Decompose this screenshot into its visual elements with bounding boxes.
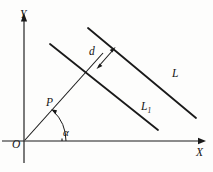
distance-d-arrow-lower-icon (97, 64, 103, 70)
geometry-figure: Y X O P d L L1 α (0, 0, 213, 172)
x-axis-label: X (196, 147, 203, 159)
distance-d-label: d (89, 46, 95, 58)
x-axis-arrow-icon (198, 138, 206, 144)
distance-d-segment (99, 50, 114, 67)
line-L-label: L (172, 68, 178, 80)
segment-p-label: P (46, 97, 53, 109)
angle-alpha-label: α (63, 127, 69, 138)
y-axis-label: Y (20, 9, 26, 21)
line-L1-label-subscript: 1 (147, 106, 151, 115)
x-axis-group (2, 138, 206, 144)
origin-label: O (12, 139, 20, 151)
line-L1 (50, 44, 158, 130)
line-L1-label: L1 (141, 101, 151, 115)
distance-d-group (97, 47, 116, 69)
figure-canvas (0, 0, 213, 172)
